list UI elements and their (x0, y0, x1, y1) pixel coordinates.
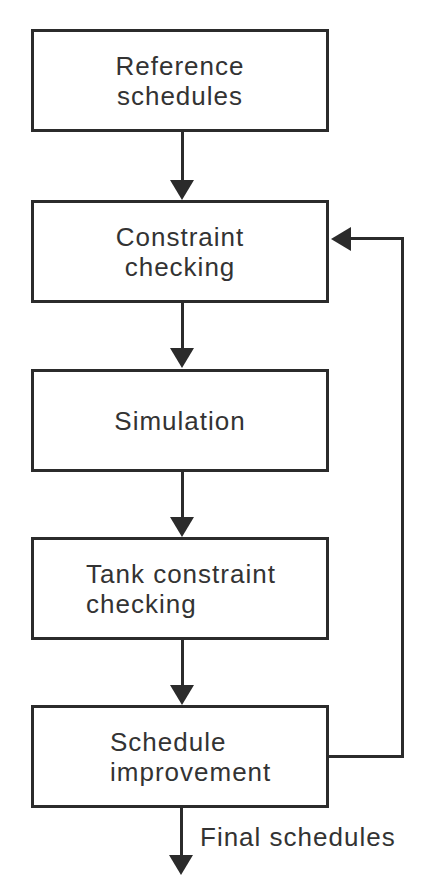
feedback-vertical (401, 237, 404, 758)
node-reference-schedules: Reference schedules (31, 29, 329, 132)
feedback-horizontal-bottom (329, 755, 404, 758)
edge-tank-to-improvement (181, 640, 184, 688)
arrow-down-icon (170, 348, 194, 368)
label-line-1: Tank constraint (86, 559, 326, 589)
label-line-2: improvement (110, 757, 326, 787)
label-line-1: Reference (34, 51, 326, 81)
edge-constraint-to-simulation (181, 303, 184, 353)
node-label: Reference schedules (34, 51, 326, 111)
edge-reference-to-constraint (181, 132, 184, 184)
arrow-down-icon (170, 517, 194, 537)
node-label: Constraint checking (34, 222, 326, 282)
arrow-left-icon (331, 227, 351, 251)
output-label: Final schedules (200, 822, 396, 853)
arrow-down-icon (170, 180, 194, 200)
node-label: Schedule improvement (110, 727, 326, 787)
label-line-1: Constraint (34, 222, 326, 252)
arrow-down-icon (169, 855, 193, 875)
node-label: Simulation (34, 406, 326, 436)
edge-output (180, 808, 183, 858)
label-line-1: Simulation (34, 406, 326, 436)
node-label: Tank constraint checking (86, 559, 326, 619)
label-line-2: checking (86, 589, 326, 619)
feedback-horizontal-top (345, 237, 404, 240)
label-line-2: schedules (34, 81, 326, 111)
label-line-2: checking (34, 252, 326, 282)
arrow-down-icon (170, 685, 194, 705)
node-tank-constraint-checking: Tank constraint checking (31, 537, 329, 640)
node-simulation: Simulation (31, 369, 329, 472)
edge-simulation-to-tank (181, 472, 184, 522)
label-line-1: Schedule (110, 727, 326, 757)
node-schedule-improvement: Schedule improvement (31, 705, 329, 808)
node-constraint-checking: Constraint checking (31, 200, 329, 303)
